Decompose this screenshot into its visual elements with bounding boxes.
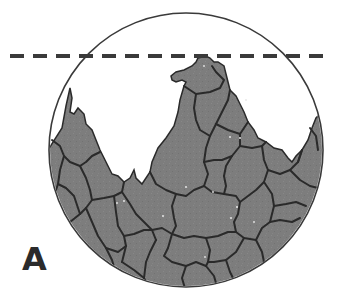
panel-label: A <box>22 243 47 275</box>
mosaic-fill <box>40 56 330 299</box>
diagram-canvas <box>0 0 344 299</box>
cell-mosaic <box>40 56 330 299</box>
figure-panel: A <box>0 0 344 299</box>
